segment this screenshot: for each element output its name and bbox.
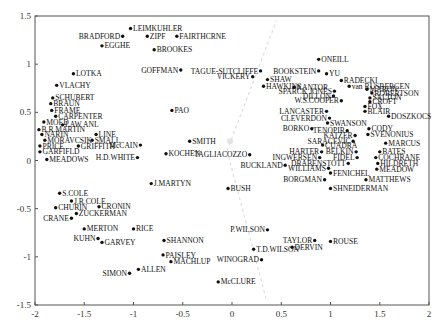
data-point: BLAIR	[363, 107, 391, 116]
data-point: KUHN	[74, 234, 100, 243]
data-point: McCAIN	[109, 141, 142, 150]
point-label: BUCKLAND	[240, 161, 283, 170]
point-marker	[152, 48, 155, 51]
x-tick-label: -2	[31, 309, 39, 319]
point-marker	[164, 152, 167, 155]
point-marker	[58, 192, 61, 195]
x-tick-label: -1	[130, 309, 138, 319]
point-label: J.MARTYN	[154, 179, 192, 188]
point-marker	[226, 187, 229, 190]
data-point: MARCUS	[384, 139, 420, 148]
point-marker	[42, 120, 45, 123]
data-point: GARVEY	[100, 238, 136, 247]
point-label: SIMON	[103, 269, 128, 278]
point-marker	[325, 72, 328, 75]
point-label: VLACHY	[59, 81, 91, 90]
point-marker	[321, 143, 324, 146]
point-marker	[355, 156, 358, 159]
data-point: DOSZKOCS	[387, 112, 431, 121]
data-point: MACHLUP	[169, 257, 210, 266]
data-point: H.D.WHITE	[96, 153, 139, 162]
point-label: EGGHE	[104, 41, 130, 50]
point-marker	[283, 164, 286, 167]
point-marker	[320, 150, 323, 153]
point-marker	[266, 78, 269, 81]
point-label: SMITH	[192, 137, 216, 146]
data-point: YU	[325, 69, 341, 78]
point-marker	[161, 253, 164, 256]
point-marker	[347, 162, 350, 165]
data-point: ROUSE	[329, 237, 358, 246]
data-point: P.WILSON	[230, 225, 269, 234]
point-marker	[252, 247, 255, 250]
y-tick-label: -0.5	[17, 204, 32, 214]
point-marker	[100, 241, 103, 244]
point-marker	[96, 237, 99, 240]
point-label: MEADOWS	[49, 155, 88, 164]
point-label: SVENONIUS	[370, 130, 413, 139]
data-point: WILLIAMS	[288, 164, 330, 173]
point-marker	[363, 105, 366, 108]
point-label: H.D.WHITE	[96, 153, 136, 162]
point-marker	[266, 228, 269, 231]
point-marker	[38, 144, 41, 147]
point-label: MACHLUP	[173, 257, 210, 266]
point-marker	[54, 206, 57, 209]
point-marker	[363, 110, 366, 113]
point-marker	[100, 44, 103, 47]
point-marker	[49, 102, 52, 105]
point-marker	[323, 178, 326, 181]
data-point: MEADOW	[375, 165, 415, 174]
data-point: BUCKLAND	[240, 161, 286, 170]
data-point: MEADOWS	[45, 155, 88, 164]
data-point: VLACHY	[55, 81, 91, 90]
point-label: CRANE	[43, 214, 69, 223]
y-tick-label: -1	[24, 252, 32, 262]
point-marker	[387, 114, 390, 117]
data-point: FAIRTHCRNE	[175, 32, 226, 41]
point-marker	[348, 85, 351, 88]
point-marker	[333, 89, 336, 92]
point-marker	[325, 110, 328, 113]
point-label: BRADFORD	[79, 32, 121, 41]
point-marker	[150, 182, 153, 185]
data-point: ALLEN	[137, 265, 167, 274]
point-marker	[97, 205, 100, 208]
point-marker	[260, 258, 263, 261]
point-label: McCAIN	[109, 141, 138, 150]
point-marker	[121, 35, 124, 38]
data-point: CLEVERDON	[281, 114, 331, 123]
point-marker	[329, 240, 332, 243]
point-marker	[217, 280, 220, 283]
point-label: SHNEIDERMAN	[333, 184, 389, 193]
point-label: PAO	[174, 106, 189, 115]
point-label: YU	[329, 69, 340, 78]
point-label: LOTKA	[76, 69, 102, 78]
point-label: BORKO	[283, 124, 310, 133]
data-point: LOTKA	[72, 69, 102, 78]
point-marker	[38, 150, 41, 153]
data-point: EGGHE	[100, 41, 130, 50]
data-point: TAGLIACOZZO	[194, 150, 251, 159]
point-marker	[175, 35, 178, 38]
point-marker	[179, 68, 182, 71]
point-marker	[75, 212, 78, 215]
point-marker	[55, 84, 58, 87]
y-tick-label: 1	[27, 59, 32, 69]
point-label: P.WILSON	[230, 225, 265, 234]
data-point: McCLURE	[217, 277, 257, 286]
point-marker	[70, 199, 73, 202]
x-tick-label: 0.5	[276, 309, 288, 319]
point-label: ALLEN	[141, 265, 166, 274]
data-point: GOFFMAN	[141, 66, 182, 75]
data-point: MATTHEWS	[364, 175, 410, 184]
data-point: CRANE	[43, 214, 73, 223]
point-marker	[128, 272, 131, 275]
data-point: MERTON	[83, 224, 119, 233]
point-marker	[136, 156, 139, 159]
point-marker	[365, 88, 368, 91]
point-marker	[83, 227, 86, 230]
point-marker	[169, 260, 172, 263]
point-marker	[368, 96, 371, 99]
point-label: FENICHEL	[333, 169, 370, 178]
